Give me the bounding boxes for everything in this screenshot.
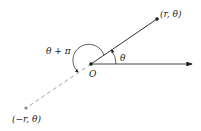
label-theta-plus-pi: θ + π [46, 46, 72, 56]
origin-point [89, 62, 93, 66]
ray-negative-dashed [26, 64, 91, 108]
label-theta: θ [120, 53, 126, 63]
theta-arc [112, 50, 117, 64]
point-negative [24, 106, 27, 109]
polar-diagram: (r, θ) (−r, θ) O θ θ + π [0, 0, 201, 131]
label-point-negative: (−r, θ) [12, 114, 42, 124]
label-point-positive: (r, θ) [160, 9, 182, 19]
label-origin: O [89, 69, 97, 79]
point-positive [155, 17, 159, 21]
